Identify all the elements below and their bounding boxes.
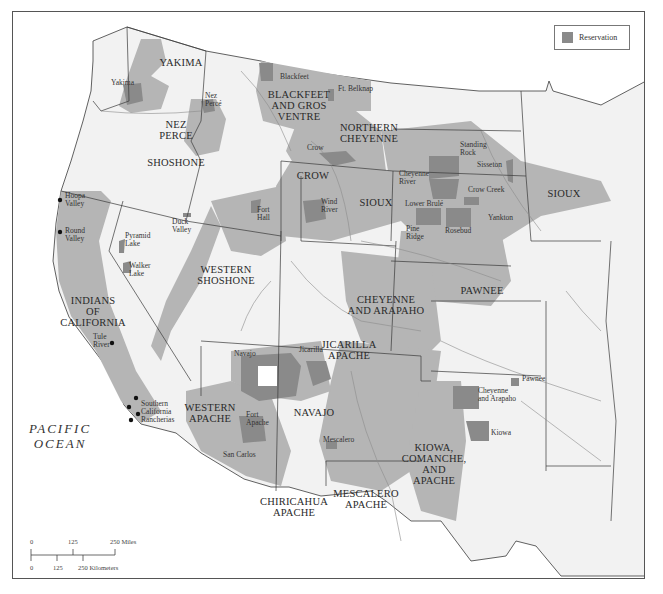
tribe-label: NAVAJO — [294, 407, 335, 418]
scale-km-125: 125 — [53, 564, 63, 571]
reservation-label: Kiowa — [491, 428, 512, 437]
reservation-label: Crow — [307, 143, 324, 152]
reservation-label: Sisseton — [477, 160, 502, 169]
scale-miles-125: 125 — [68, 538, 78, 545]
reservation-label: FortHall — [257, 205, 270, 222]
tribe-label: SIOUX — [547, 188, 580, 199]
reservation-label: Yakima — [111, 78, 135, 87]
reservation-label: HoopaValley — [65, 191, 86, 208]
tribe-label: SIOUX — [359, 197, 392, 208]
map-frame: YAKIMANEZPERCESHOSHONEBLACKFEETAND GROSV… — [12, 11, 645, 579]
tribe-label: CROW — [297, 170, 329, 181]
scale-miles-0: 0 — [30, 538, 33, 545]
legend-reservation-label: Reservation — [579, 33, 617, 42]
tribe-label: JICARILLAAPACHE — [322, 339, 377, 361]
reservation-swatch-icon — [562, 32, 573, 43]
ocean-label-line: PACIFIC — [28, 421, 91, 436]
reservation-label: San Carlos — [223, 450, 256, 459]
map-canvas: YAKIMANEZPERCESHOSHONEBLACKFEETAND GROSV… — [13, 12, 645, 579]
scale-bar: 0 125 250 Miles 0 125 250 Kilometers — [30, 538, 137, 571]
tribe-label: PAWNEE — [460, 285, 503, 296]
reservation-label: Mescalero — [323, 435, 354, 444]
reservation-label: WindRiver — [321, 197, 338, 214]
tribe-label: WESTERNSHOSHONE — [197, 264, 255, 286]
tribe-label: YAKIMA — [159, 57, 202, 68]
tribe-label: CHIRICAHUAAPACHE — [260, 496, 328, 518]
ocean-label-line: OCEAN — [34, 436, 87, 451]
reservation-label: Ft. Belknap — [338, 84, 373, 93]
ocean-label: PACIFICOCEAN — [28, 421, 91, 451]
scale-miles-250: 250 Miles — [110, 538, 137, 545]
tribe-label: NORTHERNCHEYENNE — [340, 122, 398, 144]
tribe-label: SHOSHONE — [147, 157, 205, 168]
tribe-label: WESTERNAPACHE — [185, 402, 236, 424]
scale-km-0: 0 — [30, 564, 33, 571]
scale-km-250: 250 Kilometers — [78, 564, 119, 571]
reservation-label: Crow Creek — [468, 185, 505, 194]
reservation-label: Rosebud — [445, 226, 472, 235]
map-legend: Reservation — [554, 25, 630, 50]
reservation-label: Pawnee — [522, 374, 546, 383]
reservation-label: RoundValley — [65, 226, 85, 243]
reservation-label: Lower Brulé — [405, 199, 444, 208]
reservation-label: Jicarilla — [299, 345, 323, 354]
hopi-enclave — [258, 366, 277, 386]
reservation-label: Navajo — [234, 349, 256, 358]
tribe-label: CHEYENNEAND ARAPAHO — [348, 294, 425, 316]
reservation-label: Blackfeet — [280, 72, 310, 81]
reservation-label: Yankton — [488, 213, 513, 222]
